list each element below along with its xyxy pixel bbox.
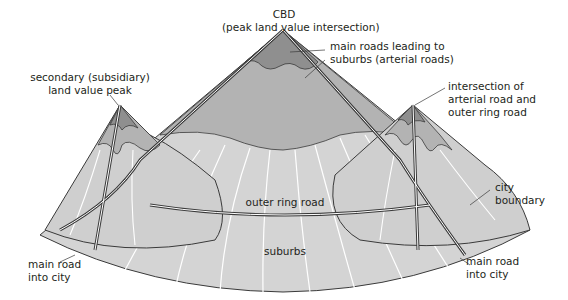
city-boundary-label: city boundary (495, 181, 545, 207)
main-roads-label: main roads leading to suburbs (arterial … (330, 40, 454, 66)
main-roads-label-line1: main roads leading to (330, 40, 454, 53)
cbd-label-line2: (peak land value intersection) (222, 21, 346, 34)
main-road-left-line2: into city (28, 271, 81, 284)
secondary-peak-label-line1: secondary (subsidiary) (28, 71, 152, 84)
outer-ring-road-text: outer ring road (230, 196, 340, 209)
main-road-left-label: main road into city (28, 258, 81, 284)
city-boundary-label-line1: city (495, 181, 545, 194)
intersection-label-line2: arterial road and (448, 93, 536, 106)
suburbs-label: suburbs (250, 245, 320, 258)
main-road-left-line1: main road (28, 258, 81, 271)
secondary-peak-label-line2: land value peak (28, 84, 152, 97)
cbd-label: CBD (peak land value intersection) (222, 8, 346, 34)
intersection-label-line1: intersection of (448, 80, 536, 93)
intersection-label: intersection of arterial road and outer … (448, 80, 536, 119)
main-roads-label-line2: suburbs (arterial roads) (330, 53, 454, 66)
secondary-peak-label: secondary (subsidiary) land value peak (28, 71, 152, 97)
main-road-right-line1: main road (466, 255, 519, 268)
cbd-label-line1: CBD (222, 8, 346, 21)
intersection-label-line3: outer ring road (448, 106, 536, 119)
outer-ring-road-label: outer ring road (230, 196, 340, 209)
main-road-right-label: main road into city (466, 255, 519, 281)
suburbs-text: suburbs (250, 245, 320, 258)
main-road-right-line2: into city (466, 268, 519, 281)
city-boundary-label-line2: boundary (495, 194, 545, 207)
